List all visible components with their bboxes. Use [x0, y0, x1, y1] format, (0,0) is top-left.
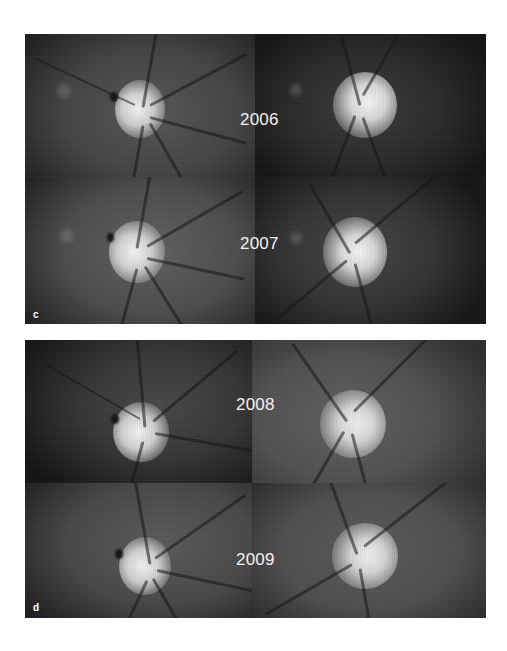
fundus-image-2006-right [255, 34, 486, 177]
fundus-image-2009-left [25, 483, 252, 618]
retinal-vessel [152, 578, 185, 618]
figure-panel-d: 2008 2009 d [25, 340, 486, 618]
retinal-vessel [354, 177, 440, 245]
fundus-image-2008-right [252, 340, 486, 483]
year-label-2006: 2006 [240, 110, 279, 130]
retinal-vessel [154, 494, 246, 560]
artifact-spot [60, 229, 74, 243]
retinal-vessel [149, 123, 189, 177]
figure-panel-c: 2006 2007 c [25, 34, 486, 324]
fundus-image-2008-left [25, 340, 252, 483]
retinal-vessel [291, 343, 348, 423]
fundus-image-2006-left [25, 34, 255, 177]
retinal-vessel [144, 266, 186, 324]
fundus-image-2007-right [255, 177, 486, 324]
peripapillary-atrophy [111, 414, 119, 424]
fundus-image-2007-left [25, 177, 255, 324]
panel-label-c: c [33, 309, 39, 320]
optic-disc [332, 523, 398, 589]
artifact-spot [57, 84, 71, 98]
retinal-vessel [277, 259, 348, 319]
year-label-2008: 2008 [236, 395, 275, 415]
retinal-vessel [152, 350, 238, 423]
retinal-vessel [265, 563, 353, 616]
artifact-spot [290, 232, 302, 244]
fundus-image-2009-right [252, 483, 486, 618]
retinal-vessel [146, 190, 243, 248]
retinal-vessel [147, 257, 245, 281]
retinal-vessel [149, 53, 248, 107]
year-label-2009: 2009 [236, 550, 275, 570]
panel-label-d: d [33, 602, 39, 613]
year-label-2007: 2007 [240, 234, 279, 254]
retinal-vessel [44, 363, 140, 420]
artifact-spot [290, 84, 302, 96]
retinal-vessel [150, 116, 247, 145]
peripapillary-atrophy [115, 549, 123, 559]
retinal-vessel [155, 432, 252, 452]
peripapillary-atrophy [107, 233, 114, 242]
retinal-vessel [35, 58, 136, 106]
retinal-vessel [157, 569, 252, 593]
